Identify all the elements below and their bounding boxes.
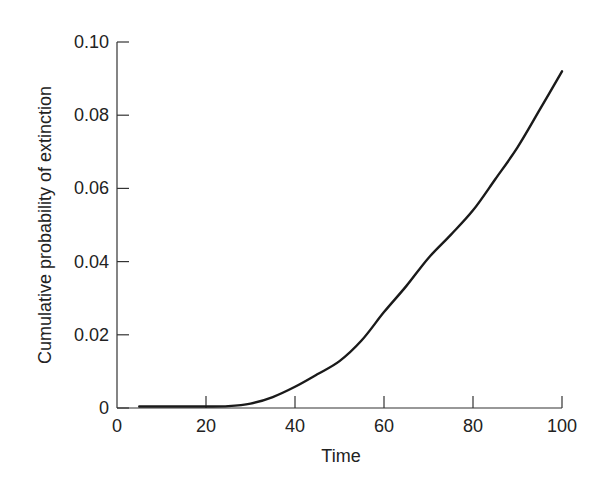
series-line (139, 71, 562, 406)
y-axis-title: Cumulative probability of extinction (35, 86, 55, 364)
y-tick-label: 0.08 (74, 105, 109, 125)
y-tick-label: 0.04 (74, 252, 109, 272)
plot-area (139, 71, 562, 406)
x-tick-label: 80 (463, 416, 483, 436)
x-tick-label: 20 (196, 416, 216, 436)
y-tick-label: 0.06 (74, 178, 109, 198)
y-tick-label: 0.02 (74, 325, 109, 345)
x-tick-label: 0 (112, 416, 122, 436)
line-chart: 00.020.040.060.080.10 020406080100 Time … (0, 0, 606, 488)
x-tick-label: 60 (374, 416, 394, 436)
x-axis-title: Time (321, 446, 360, 466)
y-tick-label: 0.10 (74, 32, 109, 52)
x-axis: 020406080100 (112, 396, 577, 436)
x-tick-label: 40 (285, 416, 305, 436)
x-tick-label: 100 (547, 416, 577, 436)
y-axis: 00.020.040.060.080.10 (74, 32, 129, 418)
y-tick-label: 0 (99, 398, 109, 418)
